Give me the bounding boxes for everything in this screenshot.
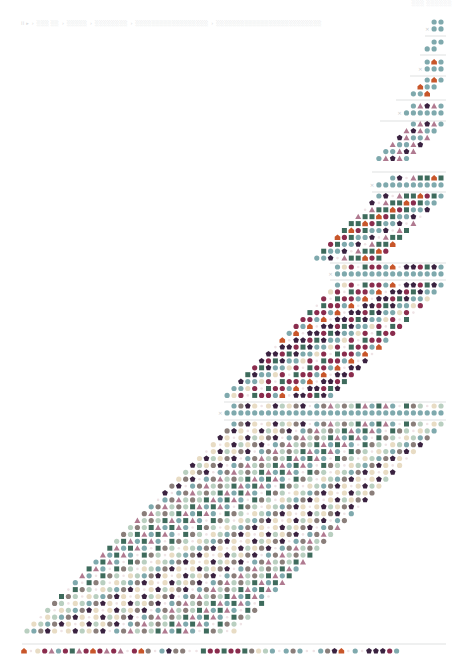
circle-glyph bbox=[225, 587, 230, 592]
circle-glyph bbox=[38, 622, 43, 627]
circle-glyph bbox=[231, 539, 236, 544]
square-glyph bbox=[383, 303, 388, 308]
pentagon-glyph bbox=[348, 310, 354, 315]
circle-glyph bbox=[218, 484, 223, 489]
circle-glyph bbox=[73, 580, 78, 585]
square-glyph bbox=[266, 477, 271, 482]
circle-glyph bbox=[342, 338, 347, 343]
circle-glyph bbox=[156, 559, 161, 564]
square-glyph bbox=[363, 338, 368, 343]
dot-glyph bbox=[302, 332, 305, 335]
circle-glyph bbox=[169, 546, 174, 551]
circle-glyph bbox=[266, 463, 271, 468]
circle-glyph bbox=[218, 470, 223, 475]
pentagon-glyph bbox=[373, 648, 379, 653]
circle-glyph bbox=[245, 566, 250, 571]
triangle-glyph bbox=[300, 435, 306, 440]
circle-glyph bbox=[211, 490, 216, 495]
triangle-glyph bbox=[118, 648, 124, 653]
pentagon-glyph bbox=[321, 323, 327, 328]
circle-glyph bbox=[425, 428, 430, 433]
dot-glyph bbox=[205, 519, 208, 522]
house-glyph bbox=[280, 392, 286, 398]
square-glyph bbox=[411, 289, 416, 294]
circle-glyph bbox=[142, 628, 147, 633]
house-glyph bbox=[307, 323, 313, 329]
dot-glyph bbox=[212, 554, 215, 557]
circle-glyph bbox=[114, 539, 119, 544]
circle-glyph bbox=[197, 539, 202, 544]
triangle-glyph bbox=[176, 621, 182, 626]
circle-glyph bbox=[432, 403, 437, 408]
circle-glyph bbox=[93, 601, 98, 606]
dot-glyph bbox=[122, 561, 125, 564]
circle-glyph bbox=[369, 421, 374, 426]
square-glyph bbox=[404, 194, 409, 199]
circle-glyph bbox=[266, 393, 271, 398]
dot-glyph bbox=[212, 471, 215, 474]
dot-glyph bbox=[143, 588, 146, 591]
square-glyph bbox=[142, 539, 147, 544]
pentagon-glyph bbox=[335, 511, 341, 516]
triangle-glyph bbox=[266, 559, 272, 564]
circle-glyph bbox=[383, 282, 388, 287]
circle-glyph bbox=[245, 518, 250, 523]
square-glyph bbox=[163, 518, 168, 523]
circle-glyph bbox=[238, 435, 243, 440]
circle-glyph bbox=[356, 271, 361, 276]
pentagon-glyph bbox=[300, 337, 306, 342]
circle-glyph bbox=[342, 351, 347, 356]
circle-glyph bbox=[432, 110, 437, 115]
circle-glyph bbox=[149, 518, 154, 523]
circle-glyph bbox=[273, 553, 278, 558]
circle-glyph bbox=[342, 477, 347, 482]
circle-glyph bbox=[183, 490, 188, 495]
triangle-glyph bbox=[383, 403, 389, 408]
pentagon-glyph bbox=[369, 303, 375, 308]
dot-glyph bbox=[309, 506, 312, 509]
square-glyph bbox=[349, 256, 354, 261]
circle-glyph bbox=[369, 490, 374, 495]
square-glyph bbox=[425, 265, 430, 270]
pentagon-glyph bbox=[321, 379, 327, 384]
circle-glyph bbox=[438, 59, 443, 64]
pentagon-glyph bbox=[245, 435, 251, 440]
circle-glyph bbox=[204, 477, 209, 482]
dot-glyph bbox=[88, 616, 91, 619]
square-glyph bbox=[321, 358, 326, 363]
circle-glyph bbox=[397, 207, 402, 212]
dot-glyph bbox=[150, 547, 153, 550]
circle-glyph bbox=[287, 484, 292, 489]
circle-glyph bbox=[418, 403, 423, 408]
circle-glyph bbox=[273, 470, 278, 475]
circle-glyph bbox=[314, 470, 319, 475]
house-glyph bbox=[431, 77, 437, 83]
pentagon-glyph bbox=[114, 607, 120, 612]
pentagon-glyph bbox=[411, 282, 417, 287]
pentagon-glyph bbox=[217, 462, 223, 467]
square-glyph bbox=[356, 317, 361, 322]
circle-glyph bbox=[225, 484, 230, 489]
circle-glyph bbox=[149, 622, 154, 627]
circle-glyph bbox=[156, 608, 161, 613]
triangle-glyph bbox=[410, 149, 416, 154]
dot-glyph bbox=[391, 229, 394, 232]
circle-glyph bbox=[438, 121, 443, 126]
circle-glyph bbox=[231, 628, 236, 633]
circle-glyph bbox=[300, 490, 305, 495]
pentagon-glyph bbox=[204, 469, 210, 474]
circle-glyph bbox=[190, 608, 195, 613]
circle-glyph bbox=[369, 282, 374, 287]
circle-glyph bbox=[314, 351, 319, 356]
circle-glyph bbox=[314, 518, 319, 523]
circle-glyph bbox=[328, 504, 333, 509]
dot-glyph bbox=[226, 547, 229, 550]
cross-marker: × bbox=[328, 271, 333, 277]
circle-glyph bbox=[342, 421, 347, 426]
square-glyph bbox=[142, 553, 147, 558]
triangle-glyph bbox=[424, 135, 430, 140]
triangle-glyph bbox=[162, 628, 168, 633]
dot-glyph bbox=[357, 304, 360, 307]
triangle-glyph bbox=[190, 614, 196, 619]
circle-glyph bbox=[280, 386, 285, 391]
